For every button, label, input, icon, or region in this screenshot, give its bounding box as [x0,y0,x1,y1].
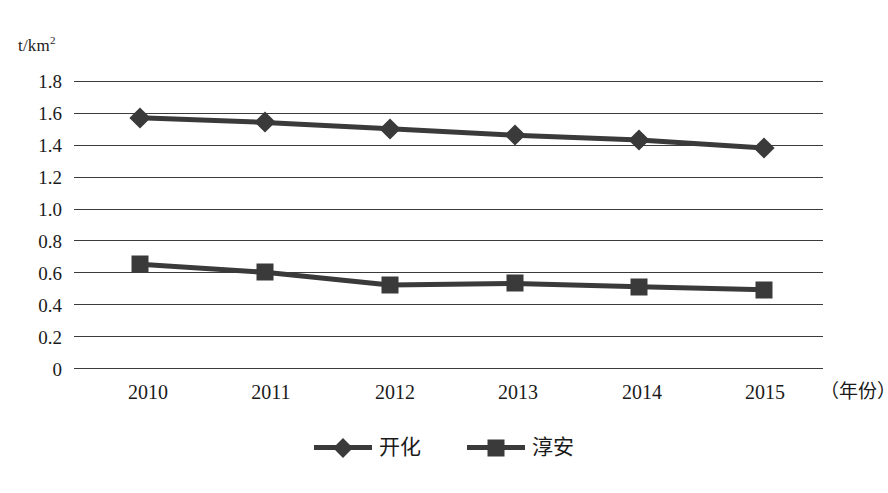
y-axis-unit-exponent: 2 [50,34,56,46]
y-axis-tick-label: 1.6 [2,104,62,123]
gridline [74,304,823,305]
y-axis-tick-label: 0.2 [2,328,62,347]
x-axis-tick-label: 2011 [226,382,316,402]
y-axis-tick-label: 0.4 [2,296,62,315]
y-axis-tick-label: 1.8 [2,72,62,91]
legend-square-marker-icon [467,439,525,457]
gridline [74,272,823,273]
legend-label: 淳安 [532,437,574,458]
y-axis-unit-label: t/km2 [18,36,56,56]
y-axis-tick-label: 0.8 [2,232,62,251]
gridline [74,209,823,210]
legend-item-chunan[interactable]: 淳安 [467,437,574,458]
legend-item-kaihua[interactable]: 开化 [314,437,421,458]
gridline [74,81,823,82]
x-axis-tick-label: 2012 [350,382,440,402]
legend-label: 开化 [379,437,421,458]
x-axis-tick-label: 2015 [720,382,810,402]
legend-diamond-marker-icon [314,439,372,457]
x-axis-tick-label: 2013 [473,382,563,402]
y-axis-tick-label: 0 [2,360,62,379]
gridline [74,113,823,114]
y-axis-tick-label: 0.6 [2,264,62,283]
y-axis-unit-base: t/km [18,36,50,55]
x-axis-tick-label: 2010 [103,382,193,402]
gridline [74,240,823,241]
plot-area [74,81,823,368]
line-chart-figure: t/km2 1.8 1.6 1.4 1.2 1.0 0.8 0.6 0.4 0.… [0,0,888,493]
gridline [74,177,823,178]
x-axis-tick-label: 2014 [597,382,687,402]
gridline [74,336,823,337]
y-axis-tick-label: 1.4 [2,136,62,155]
y-axis-tick-label: 1.2 [2,168,62,187]
chart-legend: 开化 淳安 [0,437,888,458]
x-axis-title: （年份） [820,382,888,401]
gridline [74,145,823,146]
y-axis-tick-label: 1.0 [2,200,62,219]
gridline [74,368,823,369]
